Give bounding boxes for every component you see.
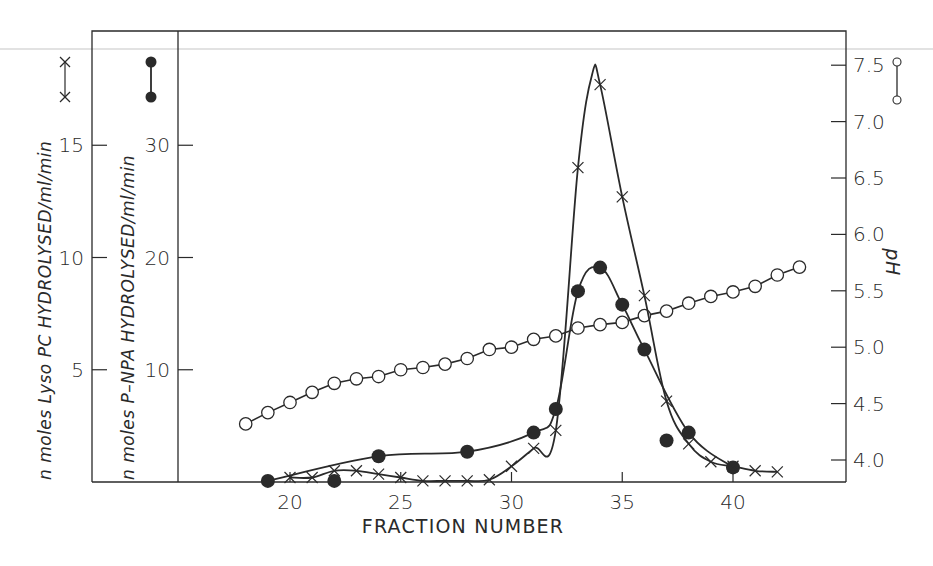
- y-axis-label-ph: pH: [882, 247, 904, 275]
- x-tick-label: 35: [610, 490, 635, 514]
- pnpa-data-point: [261, 474, 275, 488]
- y-tick-label-pnpa: 30: [145, 133, 170, 157]
- ph-data-point: [705, 290, 717, 302]
- ph-data-point: [505, 341, 517, 353]
- y-tick-label-ph: 4.0: [853, 448, 885, 472]
- series-pnpa: [261, 261, 740, 488]
- ph-data-point: [660, 305, 672, 317]
- ph-data-point: [550, 330, 562, 342]
- lyso-pc-data-point: [705, 456, 716, 467]
- x-tick-label: 25: [388, 490, 413, 514]
- pnpa-data-point: [615, 298, 629, 312]
- ph-data-point: [793, 261, 805, 273]
- y-axis-label-pnpa: n moles P–NPA HYDROLYSED/ml/min: [118, 155, 138, 480]
- y-tick-label-ph: 6.5: [853, 166, 885, 190]
- x-axis-label: FRACTION NUMBER: [362, 515, 564, 537]
- chart-canvas: 2025303540510151020304.04.55.05.56.06.57…: [0, 0, 933, 566]
- y-tick-label-lyso-pc: 15: [59, 133, 84, 157]
- plot-frame: [0, 31, 933, 482]
- ph-data-point: [417, 361, 429, 373]
- y-tick-label-ph: 7.0: [853, 110, 885, 134]
- ph-data-point: [306, 386, 318, 398]
- ph-data-point: [572, 322, 584, 334]
- x-tick-label: 40: [720, 490, 745, 514]
- ph-data-point: [262, 406, 274, 418]
- legend-key-open-circle-icon: [893, 58, 901, 104]
- ph-data-point: [749, 280, 761, 292]
- ph-data-point: [372, 370, 384, 382]
- ph-data-point: [395, 364, 407, 376]
- ph-data-point: [284, 396, 296, 408]
- pnpa-data-point: [372, 449, 386, 463]
- ph-data-point: [328, 377, 340, 389]
- y-tick-label-lyso-pc: 10: [59, 246, 84, 270]
- pnpa-data-point: [660, 433, 674, 447]
- series-lyso-pc: [285, 65, 783, 487]
- ph-data-point: [594, 318, 606, 330]
- pnpa-data-point: [527, 426, 541, 440]
- ph-data-point: [771, 269, 783, 281]
- pnpa-data-point: [460, 445, 474, 459]
- legend-key-cross-icon: [60, 57, 70, 102]
- y-tick-label-pnpa: 20: [145, 246, 170, 270]
- ph-data-point: [616, 316, 628, 328]
- y-tick-label-pnpa: 10: [145, 358, 170, 382]
- lyso-pc-data-point: [683, 438, 694, 449]
- pnpa-data-point: [571, 284, 585, 298]
- ph-data-point: [527, 333, 539, 345]
- y-tick-label-ph: 4.5: [853, 392, 885, 416]
- lyso-pc-data-point: [506, 461, 517, 472]
- y-tick-label-ph: 7.5: [853, 53, 885, 77]
- pnpa-data-point: [593, 261, 607, 275]
- pnpa-data-point: [549, 402, 563, 416]
- ph-data-point: [483, 343, 495, 355]
- legend-key-filled-circle-icon: [146, 57, 157, 103]
- x-tick-label: 20: [277, 490, 302, 514]
- ph-data-point: [350, 373, 362, 385]
- y-tick-label-ph: 5.5: [853, 279, 885, 303]
- ph-data-point: [461, 352, 473, 364]
- y-tick-label-ph: 6.0: [853, 222, 885, 246]
- series-ph: [240, 261, 806, 430]
- ph-data-point: [240, 418, 252, 430]
- ph-data-point: [439, 358, 451, 370]
- y-tick-label-ph: 5.0: [853, 335, 885, 359]
- x-tick-label: 30: [499, 490, 524, 514]
- ph-data-point: [683, 297, 695, 309]
- legend-symbol-keys: [60, 57, 901, 105]
- y-tick-label-lyso-pc: 5: [71, 358, 84, 382]
- ph-data-point: [727, 286, 739, 298]
- y-axis-label-lyso-pc: n moles Lyso PC HYDROLYSED/ml/min: [35, 141, 55, 480]
- pnpa-data-point: [637, 343, 651, 357]
